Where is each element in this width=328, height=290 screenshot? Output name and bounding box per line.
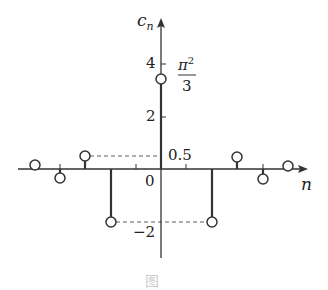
marker-n-4	[30, 160, 40, 170]
origin-label: 0	[145, 174, 155, 189]
marker-n-1	[106, 217, 116, 227]
marker-n-2	[80, 151, 90, 161]
figure-caption: 图	[145, 270, 159, 290]
c0-label-denominator: 3	[182, 79, 192, 94]
marker-n2	[232, 152, 242, 162]
marker-n4	[283, 161, 293, 171]
marker-n1	[207, 217, 217, 227]
marker-n0	[156, 74, 166, 84]
marker-n-3	[55, 173, 65, 183]
y-tick-label-4: 4	[146, 56, 156, 71]
y-tick-label-2: 2	[146, 109, 156, 124]
y-axis-label: cn	[137, 12, 154, 32]
marker-n3	[258, 174, 268, 184]
c0-label-numerator: π2	[178, 56, 194, 73]
y-tick-label-0.5: 0.5	[168, 148, 192, 163]
y-tick-label-minus-2: −2	[133, 225, 155, 240]
x-axis-label: n	[301, 176, 312, 193]
